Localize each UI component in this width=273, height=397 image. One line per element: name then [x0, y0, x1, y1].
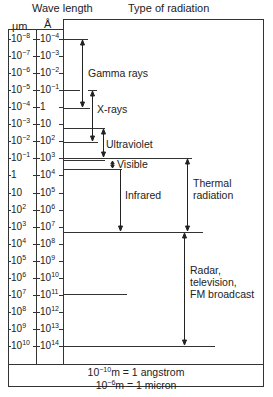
infrared-label: Infrared: [125, 189, 161, 201]
angstrom-tick-label: 104: [40, 170, 55, 180]
micron-tick-label: 106: [11, 273, 26, 283]
micron-tick-label: 10−8: [11, 34, 30, 44]
radio-label-line2: television,: [190, 276, 237, 288]
angstrom-tick-label: 103: [40, 153, 55, 163]
micron-definition: 10−6m = 1 micron: [8, 379, 264, 392]
angstrom-tick-label: 10−2: [40, 68, 59, 78]
angstrom-tick-label: 107: [40, 222, 55, 232]
angstrom-tick-label: 1012: [40, 307, 59, 317]
thermal-radiation-label-line1: Thermal: [193, 177, 232, 189]
angstrom-tick-label: 10−4: [40, 34, 59, 44]
angstrom-tick-label: 10−1: [40, 85, 59, 95]
angstrom-tick-label: 10−3: [40, 51, 59, 61]
micron-tick-label: 10−4: [11, 102, 30, 112]
micron-tick-label: 108: [11, 307, 26, 317]
micron-tick-label: 1010: [11, 341, 30, 351]
angstrom-tick-label: 1010: [40, 273, 59, 283]
micron-tick-label: 104: [11, 239, 26, 249]
micron-tick-label: 10−7: [11, 51, 30, 61]
micron-tick-label: 10−2: [11, 136, 30, 146]
micron-tick-label: 102: [11, 205, 26, 215]
micron-tick-label: 1: [11, 170, 17, 180]
angstrom-tick-label: 105: [40, 188, 55, 198]
radio-label-line3: FM broadcast: [190, 288, 254, 300]
ultraviolet-label: Ultraviolet: [106, 138, 153, 150]
angstrom-tick-label: 102: [40, 136, 55, 146]
micron-tick-label: 109: [11, 324, 26, 334]
x-rays-label: X-rays: [97, 103, 127, 115]
micron-tick-label: 10−1: [11, 153, 30, 163]
micron-tick-label: 10−6: [11, 68, 30, 78]
angstrom-tick-label: 108: [40, 239, 55, 249]
thermal-radiation-label-line2: radiation: [193, 189, 233, 201]
micron-tick-label: 103: [11, 222, 26, 232]
micron-tick-label: 105: [11, 256, 26, 266]
micron-tick-label: 10−5: [11, 85, 30, 95]
micron-tick-label: 10: [11, 188, 22, 198]
angstrom-definition: 10−10m = 1 angstrom: [8, 366, 264, 379]
micron-tick-label: 107: [11, 290, 26, 300]
angstrom-tick-label: 1011: [40, 290, 58, 300]
unit-definitions: 10−10m = 1 angstrom 10−6m = 1 micron: [8, 366, 264, 392]
angstrom-tick-label: 1: [40, 102, 46, 112]
angstrom-tick-label: 1014: [40, 341, 59, 351]
visible-label: Visible: [117, 158, 148, 170]
gamma-rays-label: Gamma rays: [88, 67, 148, 79]
angstrom-tick-label: 10: [40, 119, 51, 129]
angstrom-tick-label: 1013: [40, 324, 59, 334]
angstrom-tick-label: 109: [40, 256, 55, 266]
micron-tick-label: 10−3: [11, 119, 30, 129]
radio-label-line1: Radar,: [190, 264, 221, 276]
angstrom-tick-label: 106: [40, 205, 55, 215]
